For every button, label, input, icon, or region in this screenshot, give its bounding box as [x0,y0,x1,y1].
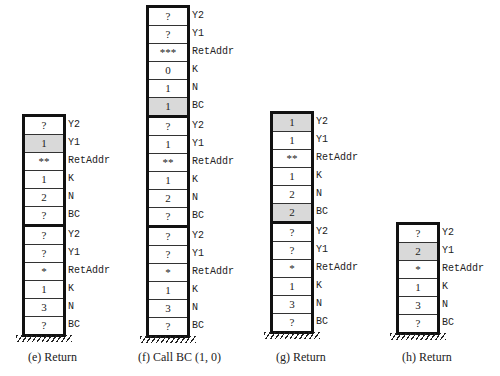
figure-caption: (f) Call BC (1, 0) [138,350,221,365]
stack-h-column: ? 2 * 1 3 ? [396,222,440,335]
stack-label: BC [316,203,328,221]
stack-frame: ? 1 ** 1 2 ? [149,118,187,228]
stack-cell: 1 [273,168,311,186]
stack-cell: ** [25,153,63,171]
stack-cell: ? [149,318,187,335]
stack-label: RetAddr [316,149,358,167]
stack-cell: ? [149,208,187,225]
stack-cell: ? [25,117,63,135]
stack-frame: ? ? * 1 3 ? [149,228,187,338]
stack-f: ? ? *** 0 1 1 ? 1 ** 1 2 ? ? ? * 1 3 ? Y… [146,5,190,338]
stack-cell: 3 [149,300,187,318]
stack-label: BC [192,317,204,335]
stack-cell: 2 [273,186,311,204]
stack-cell-highlighted: 2 [273,204,311,221]
stack-cell: 2 [149,190,187,208]
stack-e: ? 1 ** 1 2 ? ? ? * 1 3 ? Y2 Y1 RetAddr K… [22,114,66,337]
stack-label: RetAddr [192,43,234,61]
stack-frame: ? 2 * 1 3 ? [399,225,437,335]
stack-cell: * [399,261,437,279]
stack-g: 1 1 ** 1 2 2 ? ? * 1 3 ? Y2 Y1 RetAddr K… [270,111,314,334]
stack-cell-highlighted: 1 [273,114,311,132]
stack-label: BC [442,314,454,332]
stack-label: Y1 [68,134,80,152]
ground-hatch [264,332,320,339]
stack-label: K [316,277,322,295]
stack-f-column: ? ? *** 0 1 1 ? 1 ** 1 2 ? ? ? * 1 3 ? [146,5,190,338]
ground-hatch [390,333,446,340]
stack-label: RetAddr [316,259,358,277]
stack-frame: ? ? *** 0 1 1 [149,8,187,118]
stack-label: Y2 [316,223,328,241]
stack-label: Y2 [316,113,328,131]
stack-cell-highlighted: 1 [25,135,63,153]
stack-cell: ? [273,224,311,242]
stack-label: BC [68,316,80,334]
stack-cell: 1 [273,132,311,150]
figure-caption: (e) Return [28,350,77,365]
figure-caption: (g) Return [276,350,326,365]
stack-label: N [442,296,448,314]
stack-label: Y2 [68,226,80,244]
ground-hatch [16,335,72,342]
stack-cell: ? [149,8,187,26]
stack-cell: 1 [149,172,187,190]
stack-cell: 3 [399,297,437,315]
stack-cell: ? [273,314,311,331]
stack-frame: 1 1 ** 1 2 2 [273,114,311,224]
stack-label: Y1 [192,245,204,263]
stack-label: Y1 [192,25,204,43]
stack-cell: * [273,260,311,278]
stack-cell: ? [273,242,311,260]
stack-cell: 3 [273,296,311,314]
figure-caption: (h) Return [402,350,452,365]
stack-cell: 1 [149,136,187,154]
stack-label: RetAddr [68,262,110,280]
stack-frame: ? ? * 1 3 ? [273,224,311,334]
stack-label: K [442,278,448,296]
stack-label: Y2 [192,7,204,25]
stack-cell: 3 [25,299,63,317]
stack-label: N [192,189,198,207]
stack-label: Y2 [442,224,454,242]
stack-label: N [316,185,322,203]
stack-cell: 1 [25,171,63,189]
stack-cell-highlighted: 1 [149,98,187,115]
stack-g-column: 1 1 ** 1 2 2 ? ? * 1 3 ? [270,111,314,334]
stack-cell: ? [149,246,187,264]
stack-cell: 1 [399,279,437,297]
stack-cell: ? [25,317,63,334]
stack-cell: 1 [25,281,63,299]
stack-h: ? 2 * 1 3 ? Y2 Y1 RetAddr K N BC (h) Ret… [396,222,440,335]
stack-label: Y1 [442,242,454,260]
stack-cell: 1 [149,80,187,98]
stack-label: RetAddr [192,263,234,281]
stack-cell: ** [149,154,187,172]
stack-label: K [192,61,198,79]
stack-label: N [316,295,322,313]
stack-cell: ? [149,228,187,246]
stack-label: Y1 [316,241,328,259]
stack-label: Y1 [68,244,80,262]
stack-cell: ** [273,150,311,168]
ground-hatch [140,336,196,343]
stack-label: Y1 [316,131,328,149]
stack-cell: * [149,264,187,282]
stack-label: BC [192,207,204,225]
stack-label: Y2 [68,116,80,134]
stack-cell: * [25,263,63,281]
stack-label: N [68,298,74,316]
stack-cell: 1 [273,278,311,296]
stack-frame: ? ? * 1 3 ? [25,227,63,337]
stack-cell: ? [25,227,63,245]
stack-label: N [192,79,198,97]
stack-cell: *** [149,44,187,62]
stack-cell: 0 [149,62,187,80]
stack-label: Y2 [192,117,204,135]
stack-label: K [68,280,74,298]
stack-label: BC [68,206,80,224]
stack-cell: ? [399,315,437,332]
stack-label: N [192,299,198,317]
stack-label: K [68,170,74,188]
stack-label: N [68,188,74,206]
